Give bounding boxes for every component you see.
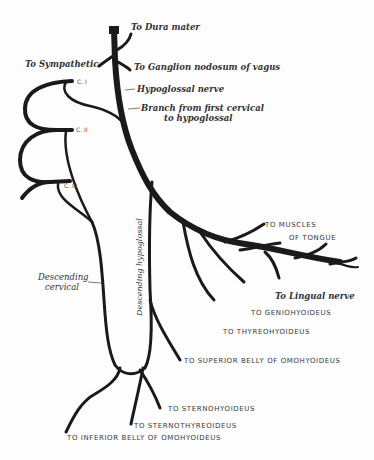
label-sternohyoideus: TO STERNOHYOIDEUS [168,406,255,413]
inferior-omohyoid-branch [66,368,120,432]
c3-descending [58,184,92,222]
sympathetic-branch [99,56,113,66]
leader-descending-cervical [88,282,102,283]
label-sternothyreoideus: TO STERNOTHYREOIDEUS [134,423,237,430]
superior-omohyoid-branch [150,300,180,360]
label-descending-hypoglossal: Descending hypoglossal [136,218,144,316]
label-dura-mater: To Dura mater [131,23,200,32]
label-descending-cervical-line2: cervical [45,283,79,292]
sternohyoid-branch [140,370,160,408]
trunk-cut-end [109,26,119,34]
label-c1: C. I [77,79,87,85]
label-c3: C. III [64,183,77,189]
label-superior-omohyoideus: TO SUPERIOR BELLY OF OMOHYOIDEUS [184,358,340,365]
hypoglossal-nerve-diagram: To Dura mater To Sympathetic To Ganglion… [0,0,374,460]
tongue-branch-1 [225,224,264,242]
label-hypoglossal-nerve: Hypoglossal nerve [137,85,224,94]
label-descending-cervical-line1: Descending [38,273,89,282]
label-muscles-tongue-line2: OF TONGUE [289,235,336,242]
leader-branch-first-cervical [128,108,140,109]
c2-loop [20,130,70,182]
lingual-branch [265,252,279,278]
label-sympathetic: To Sympathetic [25,60,98,69]
label-ganglion-nodosum: To Ganglion nodosum of vagus [134,63,280,72]
label-lingual-nerve: To Lingual nerve [275,292,355,301]
label-geniohyoideus: TO GENIOHYOIDEUS [251,310,331,317]
label-branch-first-cervical-line2: to hypoglossal [164,114,232,123]
label-c2: C. II [76,127,88,133]
leader-hypoglossal [125,89,135,90]
c2-descending [65,131,92,222]
sternothyreoid-branch [131,368,143,424]
ganglion-nodosum-branch [118,62,130,70]
dura-mater-branch [117,34,131,50]
label-branch-first-cervical-line1: Branch from first cervical [141,104,264,113]
c3-loop [22,182,50,198]
label-inferior-omohyoideus: TO INFERIOR BELLY OF OMOHYOIDEUS [67,435,221,442]
label-thyreohyoideus: TO THYREOHYOIDEUS [223,329,310,336]
label-muscles-tongue-line1: TO MUSCLES [265,222,316,229]
